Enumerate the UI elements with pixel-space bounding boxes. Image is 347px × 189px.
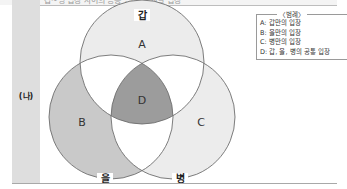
legend-item-c: C: 병만의 입장 [260, 38, 347, 48]
legend-item-a: A: 갑만의 입장 [260, 19, 347, 29]
legend-box: 〈범례〉 A: 갑만의 입장 B: 을만의 입장 C: 병만의 입장 D: 갑,… [256, 14, 347, 60]
region-label-d: D [138, 94, 146, 107]
legend-item-b: B: 을만의 입장 [260, 29, 347, 39]
legend-title: 〈범례〉 [277, 9, 307, 19]
region-label-c: C [197, 116, 205, 129]
bottom-divider [12, 183, 337, 184]
circle-label-gap: 갑 [138, 10, 148, 21]
region-label-b: B [78, 116, 86, 129]
region-label-a: A [138, 38, 146, 51]
legend-list: A: 갑만의 입장 B: 을만의 입장 C: 병만의 입장 D: 갑, 을, 병… [257, 15, 347, 57]
legend-item-d: D: 갑, 을, 병의 공통 입장 [260, 48, 347, 58]
